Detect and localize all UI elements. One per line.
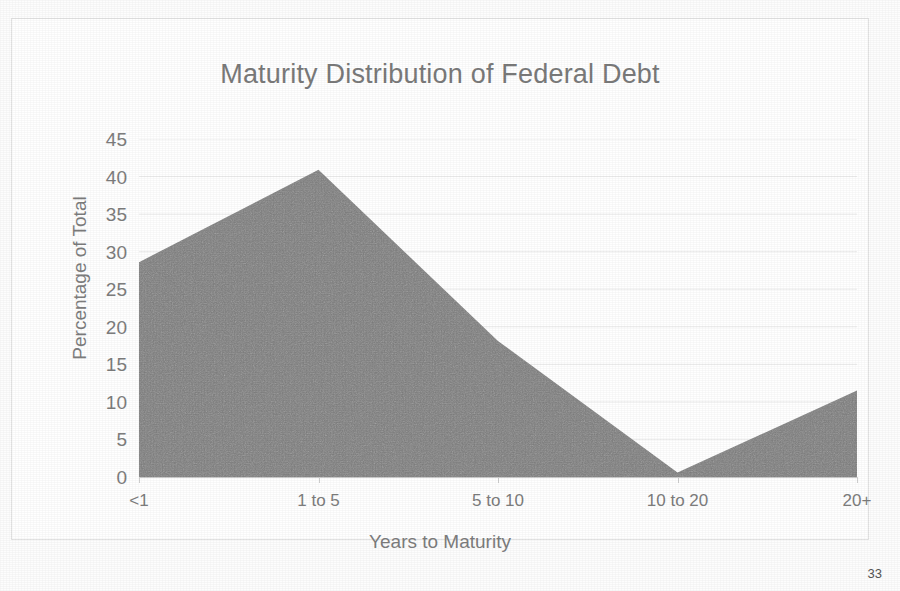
x-tick-mark xyxy=(319,477,320,483)
y-tick-label: 35 xyxy=(85,205,127,224)
y-tick-label: 25 xyxy=(85,280,127,299)
page-number: 33 xyxy=(868,566,882,581)
y-tick-label: 15 xyxy=(85,355,127,374)
x-tick-label: 5 to 10 xyxy=(472,491,524,511)
plot-area xyxy=(139,139,857,477)
x-tick-label: 10 to 20 xyxy=(647,491,708,511)
area-chart-svg xyxy=(139,139,857,477)
scanned-page: Maturity Distribution of Federal Debt 05… xyxy=(0,0,900,591)
y-tick-label: 0 xyxy=(85,468,127,487)
chart-title: Maturity Distribution of Federal Debt xyxy=(12,59,868,90)
x-tick-mark xyxy=(857,477,858,483)
x-tick-label: <1 xyxy=(129,491,148,511)
y-axis-title: Percentage of Total xyxy=(69,148,91,408)
x-tick-mark xyxy=(498,477,499,483)
y-tick-label: 30 xyxy=(85,243,127,262)
x-tick-label: 1 to 5 xyxy=(297,491,340,511)
x-axis-title: Years to Maturity xyxy=(12,531,868,553)
x-tick-mark xyxy=(139,477,140,483)
x-tick-label: 20+ xyxy=(843,491,872,511)
chart-frame: Maturity Distribution of Federal Debt 05… xyxy=(11,18,869,540)
y-tick-label: 20 xyxy=(85,318,127,337)
y-tick-label: 40 xyxy=(85,168,127,187)
y-tick-label: 5 xyxy=(85,430,127,449)
series-area xyxy=(139,170,857,477)
x-tick-mark xyxy=(678,477,679,483)
y-tick-label: 45 xyxy=(85,130,127,149)
y-tick-label: 10 xyxy=(85,393,127,412)
